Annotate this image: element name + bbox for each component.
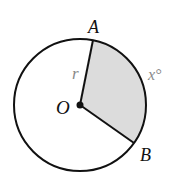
circle-sector-diagram: A O B r x° bbox=[0, 0, 171, 179]
label-a: A bbox=[87, 17, 100, 37]
center-point bbox=[77, 102, 84, 109]
label-r: r bbox=[72, 64, 79, 83]
label-b: B bbox=[140, 145, 151, 165]
label-arc-x: x° bbox=[147, 66, 162, 83]
label-o: O bbox=[56, 97, 70, 118]
